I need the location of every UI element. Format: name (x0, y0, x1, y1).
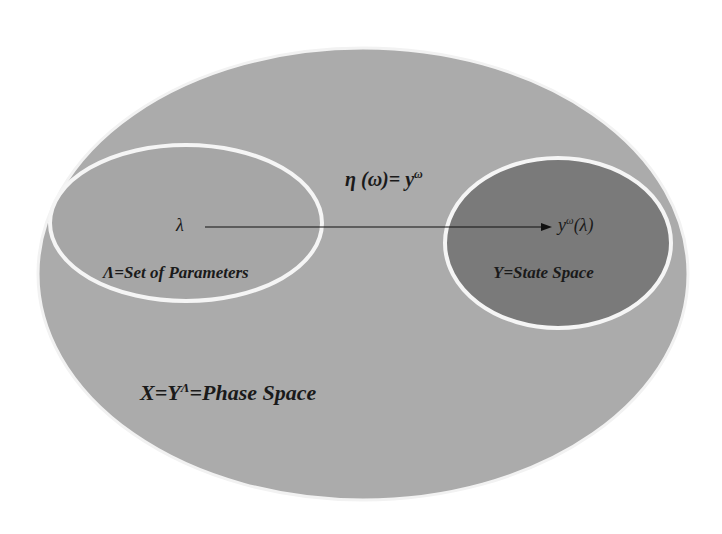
phase-space-label-rest: =Phase Space (189, 380, 316, 405)
mapping-label-main: η (ω)= y (345, 168, 414, 190)
state-space-ellipse (445, 158, 671, 328)
mapping-label: η (ω)= yω (345, 168, 423, 191)
mapping-label-sup: ω (414, 167, 423, 181)
state-symbol-base: y (558, 215, 566, 235)
parameters-set-label: Λ=Set of Parameters (103, 263, 249, 283)
state-space-label: Y=State Space (493, 263, 594, 283)
phase-space-label-main: X=Y (140, 380, 181, 405)
lambda-symbol: λ (176, 215, 184, 236)
phase-space-label: X=YΛ=Phase Space (140, 380, 316, 406)
state-symbol-sup: ω (566, 214, 574, 226)
state-symbol-tail: (λ) (574, 215, 594, 235)
state-symbol: yω(λ) (558, 215, 593, 236)
